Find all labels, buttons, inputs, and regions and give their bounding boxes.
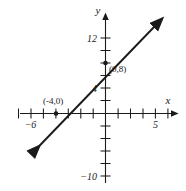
point-marker-y-intercept [103,61,108,66]
x-tick-label-5: 5 [153,119,158,130]
annotation-y-intercept: (0,8) [109,64,126,74]
y-tick-label-neg10: −10 [80,171,97,182]
y-axis-label: y [95,4,101,16]
y-tick-label-12: 12 [87,33,97,44]
graph-figure: x y −6 5 12 4 −10 (0,8) (-4,0) [0,0,186,191]
x-tick-label-neg6: −6 [25,119,37,130]
annotation-x-intercept: (-4,0) [43,96,63,106]
x-axis-label: x [165,94,171,106]
coordinate-plane-svg: x y −6 5 12 4 −10 (0,8) (-4,0) [0,0,186,191]
y-tick-label-4: 4 [92,83,97,94]
point-marker-x-intercept [54,111,59,116]
